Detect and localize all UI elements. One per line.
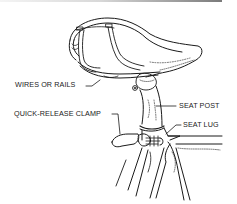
- leader-lines: [86, 80, 181, 134]
- frame-tubes: [116, 142, 190, 200]
- label-seat-post: SEAT POST: [179, 102, 220, 109]
- label-wires-or-rails: WIRES OR RAILS: [15, 81, 76, 88]
- leader-clamp: [112, 114, 120, 134]
- quick-release-clamp: [112, 134, 163, 147]
- seatpost-clamp-head: [133, 73, 157, 90]
- leader-wires: [86, 80, 100, 86]
- saddle-rails: [78, 62, 160, 78]
- leader-lug: [166, 125, 181, 134]
- saddle: [69, 18, 202, 77]
- label-quick-release-clamp: QUICK-RELEASE CLAMP: [14, 110, 101, 117]
- label-seat-lug: SEAT LUG: [183, 121, 219, 128]
